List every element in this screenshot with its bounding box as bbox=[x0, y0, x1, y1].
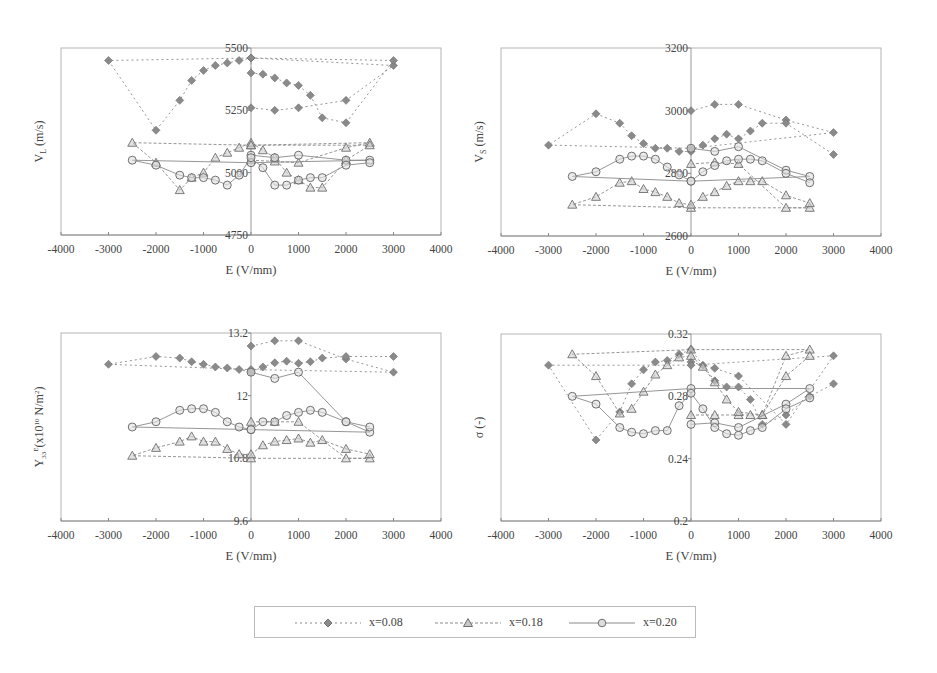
triangle-marker bbox=[675, 199, 684, 207]
legend-label: x=0.18 bbox=[509, 615, 543, 630]
circle-marker bbox=[675, 402, 683, 410]
circle-marker bbox=[723, 430, 731, 438]
triangle-marker bbox=[746, 411, 755, 419]
diamond-marker bbox=[640, 140, 648, 148]
diamond-marker bbox=[306, 358, 314, 366]
circle-marker-icon bbox=[567, 617, 637, 629]
triangle-marker bbox=[627, 404, 636, 412]
x-tick-label: 2000 bbox=[775, 529, 798, 541]
triangle-marker bbox=[128, 451, 137, 459]
y-tick-label: 12 bbox=[237, 390, 249, 402]
diamond-marker bbox=[152, 353, 160, 361]
y-tick-label: 3000 bbox=[665, 105, 688, 117]
diamond-marker bbox=[295, 81, 303, 89]
diamond-marker bbox=[283, 357, 291, 365]
y-axis-label: σ (-) bbox=[472, 417, 486, 438]
x-tick-label: -3000 bbox=[95, 243, 122, 255]
circle-marker bbox=[699, 405, 707, 413]
circle-marker bbox=[128, 423, 136, 431]
triangle-marker bbox=[199, 437, 208, 445]
diamond-marker bbox=[176, 354, 184, 362]
circle-marker bbox=[306, 174, 314, 182]
circle-marker bbox=[735, 155, 743, 163]
triangle-marker bbox=[734, 177, 743, 185]
legend-item-x018: x=0.18 bbox=[433, 615, 543, 630]
diamond-marker bbox=[663, 144, 671, 152]
x-tick-label: 0 bbox=[688, 529, 694, 541]
diamond-marker bbox=[830, 129, 838, 137]
diamond-marker bbox=[342, 96, 350, 104]
chart-vs: -4000-3000-2000-100001000200030004000260… bbox=[472, 42, 893, 278]
circle-marker bbox=[295, 151, 303, 159]
triangle-marker bbox=[592, 192, 601, 200]
triangle-marker bbox=[294, 434, 303, 442]
x-axis-label: E (V/mm) bbox=[225, 549, 276, 563]
circle-marker bbox=[711, 424, 719, 432]
diamond-marker bbox=[675, 147, 683, 155]
circle-marker bbox=[211, 408, 219, 416]
triangle-marker bbox=[722, 395, 731, 403]
circle-marker bbox=[628, 428, 636, 436]
diamond-marker bbox=[390, 56, 398, 64]
diamond-marker bbox=[628, 132, 636, 140]
y-tick-label: 0.24 bbox=[668, 453, 688, 465]
x-tick-label: -1000 bbox=[630, 529, 657, 541]
circle-marker bbox=[259, 164, 267, 172]
x-tick-label: 2000 bbox=[335, 529, 358, 541]
x-tick-label: -3000 bbox=[95, 529, 122, 541]
circle-marker bbox=[188, 174, 196, 182]
circle-marker bbox=[687, 389, 695, 397]
diamond-marker bbox=[188, 76, 196, 84]
triangle-marker bbox=[687, 411, 696, 419]
x-tick-label: -2000 bbox=[583, 244, 610, 256]
diamond-marker bbox=[735, 372, 743, 380]
circle-marker bbox=[699, 168, 707, 176]
triangle-marker bbox=[627, 177, 636, 185]
diamond-marker bbox=[223, 59, 231, 67]
y-tick-label: 0.32 bbox=[668, 328, 688, 340]
triangle-marker bbox=[235, 143, 244, 151]
circle-marker bbox=[746, 427, 754, 435]
triangle-marker bbox=[294, 417, 303, 425]
circle-marker bbox=[592, 400, 600, 408]
figure-canvas: -4000-3000-2000-100001000200030004000475… bbox=[0, 0, 937, 673]
triangle-marker bbox=[687, 200, 696, 208]
circle-marker bbox=[651, 427, 659, 435]
triangle-marker bbox=[258, 146, 267, 154]
y-axis-label: Y33E(x1010 N/m2) bbox=[32, 387, 48, 468]
diamond-marker bbox=[295, 359, 303, 367]
x-tick-label: 1000 bbox=[727, 244, 750, 256]
circle-marker bbox=[271, 374, 279, 382]
diamond-marker bbox=[735, 100, 743, 108]
circle-marker bbox=[247, 368, 255, 376]
diamond-marker bbox=[283, 79, 291, 87]
diamond-marker bbox=[830, 352, 838, 360]
x-tick-label: 2000 bbox=[335, 243, 358, 255]
chart-vl: -4000-3000-2000-100001000200030004000475… bbox=[32, 42, 453, 277]
triangle-marker bbox=[175, 437, 184, 445]
circle-marker bbox=[616, 424, 624, 432]
circle-marker bbox=[295, 368, 303, 376]
circle-marker bbox=[188, 405, 196, 413]
circle-marker bbox=[687, 144, 695, 152]
circle-marker bbox=[211, 176, 219, 184]
circle-marker bbox=[176, 406, 184, 414]
diamond-marker bbox=[235, 366, 243, 374]
x-tick-label: 1000 bbox=[287, 529, 310, 541]
x-tick-label: -3000 bbox=[535, 529, 562, 541]
x-tick-label: -4000 bbox=[488, 244, 515, 256]
diamond-marker bbox=[247, 54, 255, 62]
y-tick-label: 0.28 bbox=[668, 390, 688, 402]
diamond-marker bbox=[782, 420, 790, 428]
diamond-marker bbox=[271, 106, 279, 114]
triangle-marker bbox=[805, 199, 814, 207]
circle-marker bbox=[687, 177, 695, 185]
triangle-marker bbox=[651, 370, 660, 378]
y-axis-label: VS (m/s) bbox=[472, 121, 488, 162]
y-axis-label: VL (m/s) bbox=[32, 121, 48, 163]
triangle-marker bbox=[568, 200, 577, 208]
x-tick-label: -2000 bbox=[583, 529, 610, 541]
diamond-marker bbox=[342, 119, 350, 127]
triangle-marker bbox=[710, 188, 719, 196]
x-tick-label: -4000 bbox=[488, 529, 515, 541]
